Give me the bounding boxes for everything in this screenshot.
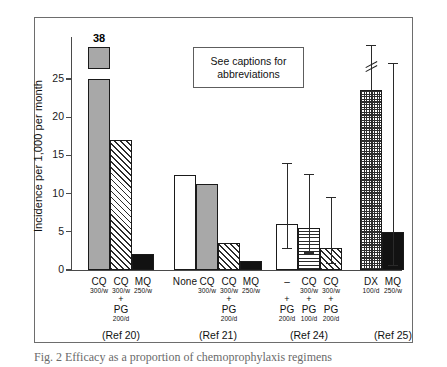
error-bar-stem bbox=[393, 63, 394, 265]
bar-value-label: 38 bbox=[79, 32, 119, 44]
bar-broken-cap bbox=[88, 47, 110, 69]
error-bar-cap-lower bbox=[388, 265, 398, 266]
error-bar-stem bbox=[331, 197, 332, 263]
x-tick-label: MQ250/w bbox=[369, 276, 417, 295]
x-tick-label: MQ250/w bbox=[119, 276, 167, 295]
bar bbox=[174, 175, 196, 270]
error-bar-cap-lower bbox=[304, 252, 314, 253]
bar bbox=[132, 254, 154, 270]
error-bar-cap-lower bbox=[366, 213, 376, 214]
error-bar-cap-lower bbox=[326, 263, 336, 264]
x-label-dose: 250/w bbox=[369, 287, 417, 295]
x-label-plus: + bbox=[97, 295, 145, 304]
bar bbox=[88, 79, 110, 270]
bar bbox=[196, 184, 218, 270]
y-tick bbox=[66, 117, 72, 118]
x-label-drug: MQ bbox=[119, 276, 167, 287]
x-label-dose2: 200/d bbox=[205, 315, 253, 323]
x-label-drug2: PG bbox=[97, 304, 145, 315]
bar bbox=[240, 261, 262, 270]
y-tick bbox=[66, 269, 72, 270]
y-tick-label: 15 bbox=[38, 149, 64, 159]
error-bar-cap-upper bbox=[304, 174, 314, 175]
reference-label: (Ref 25) bbox=[353, 329, 433, 341]
reference-label: (Ref 20) bbox=[81, 329, 161, 341]
y-tick-label: 0 bbox=[38, 264, 64, 274]
y-tick bbox=[66, 78, 72, 79]
error-bar-cap-lower bbox=[282, 248, 292, 249]
error-bar-cap-upper bbox=[366, 45, 376, 46]
y-tick bbox=[66, 193, 72, 194]
x-label-dose2: 200/d bbox=[97, 315, 145, 323]
y-tick-label: 5 bbox=[38, 226, 64, 236]
bar bbox=[218, 243, 240, 270]
y-tick bbox=[66, 231, 72, 232]
error-bar-cap-upper bbox=[282, 163, 292, 164]
plot-area: Incidence per 1,000 per month 0510152025… bbox=[0, 0, 447, 367]
error-bar-cap-upper bbox=[326, 197, 336, 198]
bar bbox=[110, 140, 132, 270]
x-label-plus: + bbox=[307, 295, 355, 304]
error-bar-stem bbox=[287, 163, 288, 248]
abbreviations-note: See captions for abbreviations bbox=[193, 47, 304, 88]
x-label-plus: + bbox=[205, 295, 253, 304]
y-tick-label: 10 bbox=[38, 188, 64, 198]
figure-caption: Fig. 2 Efficacy as a proportion of chemo… bbox=[34, 350, 434, 365]
reference-label: (Ref 21) bbox=[178, 329, 258, 341]
abbreviations-note-text: See captions for abbreviations bbox=[194, 55, 303, 81]
axis-break-mark bbox=[363, 62, 380, 74]
x-label-dose2: 200/d bbox=[307, 315, 355, 323]
y-tick-label: 25 bbox=[38, 73, 64, 83]
reference-label: (Ref 24) bbox=[269, 329, 349, 341]
x-label-drug: MQ bbox=[369, 276, 417, 287]
error-bar-cap-upper bbox=[388, 63, 398, 64]
x-axis-line bbox=[71, 270, 402, 271]
y-tick-label: 20 bbox=[38, 111, 64, 121]
x-label-dose: 250/w bbox=[119, 287, 167, 295]
x-label-drug2: PG bbox=[307, 304, 355, 315]
figure-container: Incidence per 1,000 per month 0510152025… bbox=[0, 0, 447, 367]
error-bar-stem bbox=[309, 174, 310, 253]
x-label-drug2: PG bbox=[205, 304, 253, 315]
y-tick bbox=[66, 155, 72, 156]
